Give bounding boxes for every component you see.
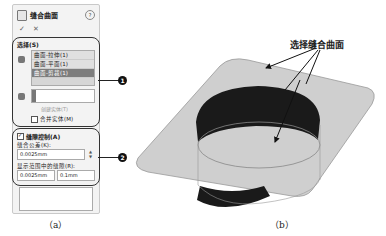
- caption-a: （a）: [44, 218, 67, 231]
- select-knit-surface-annotation: 选择缝合曲面: [290, 38, 344, 51]
- caption-b: （b）: [270, 218, 294, 231]
- surface-model-illustration: [0, 0, 386, 236]
